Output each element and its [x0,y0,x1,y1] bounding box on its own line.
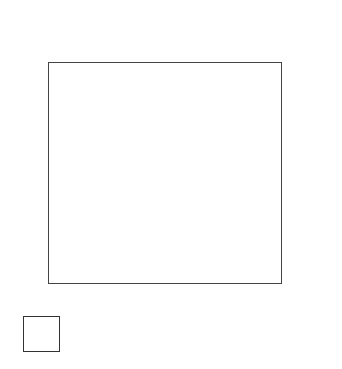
corner-panel-x1-x2 [23,316,60,352]
main-grid-frame [48,62,282,284]
